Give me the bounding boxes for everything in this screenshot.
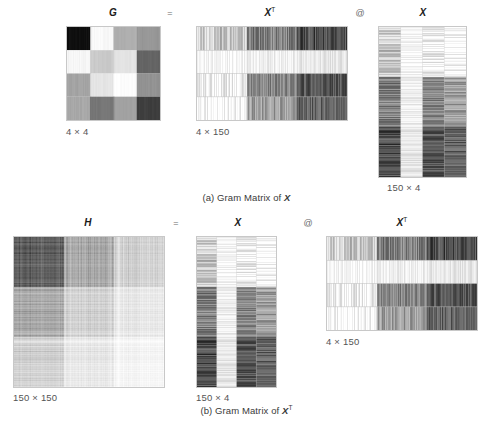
matrix-label-x-b: X — [218, 216, 258, 228]
equals-sign-a: = — [160, 8, 180, 18]
dim-label-xt-b: 4 × 150 — [326, 336, 359, 347]
matrix-label-h: H — [68, 216, 108, 228]
dim-label-h: 150 × 150 — [13, 392, 57, 403]
mat-g-canvas — [67, 27, 160, 120]
caption-panel-b: (b) Gram Matrix of XT — [0, 404, 493, 416]
mat-xt-a-canvas — [197, 27, 347, 120]
mat-xt-b-canvas — [327, 237, 477, 330]
heatmap-x-a — [378, 26, 467, 178]
dim-label-g: 4 × 4 — [66, 126, 88, 137]
matrix-label-xt-a: XT — [250, 6, 290, 18]
heatmap-h — [13, 236, 165, 388]
at-sign-a: @ — [350, 8, 370, 18]
mat-x-a-canvas — [379, 27, 466, 177]
heatmap-xt-a — [196, 26, 348, 121]
equals-sign-b: = — [166, 218, 186, 228]
at-sign-b: @ — [298, 218, 318, 228]
mat-h-canvas — [14, 237, 164, 387]
matrix-label-g: G — [93, 6, 133, 18]
heatmap-xt-b — [326, 236, 478, 331]
heatmap-x-b — [196, 236, 277, 388]
dim-label-xt-a: 4 × 150 — [196, 126, 229, 137]
matrix-label-xt-b: XT — [382, 216, 422, 228]
dim-label-x-b: 150 × 4 — [196, 392, 229, 403]
heatmap-g — [66, 26, 161, 121]
mat-x-b-canvas — [197, 237, 276, 387]
matrix-label-x-a: X — [403, 6, 443, 18]
caption-panel-a: (a) Gram Matrix of X — [0, 192, 493, 203]
